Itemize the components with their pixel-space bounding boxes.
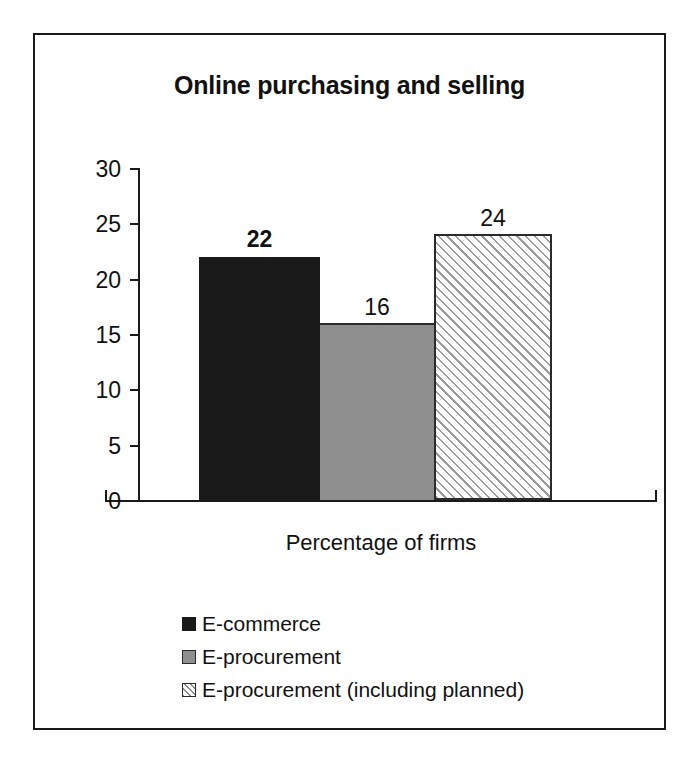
- bar-e-procurement-including-planned[interactable]: 24: [434, 234, 552, 500]
- y-tick-label-15: 15: [95, 324, 121, 347]
- bar-group: 22 16 24: [199, 168, 559, 500]
- y-tick-25: 25: [130, 223, 139, 225]
- legend-item-e-commerce[interactable]: E-commerce: [182, 607, 524, 640]
- y-tick-label-30: 30: [95, 158, 121, 181]
- legend-item-e-procurement-including-planned[interactable]: E-procurement (including planned): [182, 673, 524, 706]
- bar-value-label-e-procurement-including-planned: 24: [436, 207, 550, 230]
- bar-value-label-e-procurement: 16: [320, 296, 434, 319]
- y-tick-label-0: 0: [108, 490, 121, 513]
- chart-legend: E-commerce E-procurement E-procurement (…: [182, 607, 524, 706]
- legend-label-e-procurement: E-procurement: [202, 646, 341, 667]
- y-tick-0: 0: [130, 500, 139, 502]
- black-square-icon: [182, 617, 196, 631]
- bar-e-commerce[interactable]: 22: [199, 257, 320, 500]
- x-axis-right-cap: [655, 490, 657, 502]
- y-tick-30: 30: [130, 168, 139, 170]
- chart-figure-frame: Online purchasing and selling 30 25 20 1…: [33, 33, 666, 730]
- legend-label-e-commerce: E-commerce: [202, 613, 321, 634]
- bar-e-procurement[interactable]: 16: [320, 323, 434, 500]
- x-axis-left-cap: [105, 490, 107, 502]
- y-tick-label-20: 20: [95, 269, 121, 292]
- hatched-square-icon: [182, 683, 196, 697]
- legend-item-e-procurement[interactable]: E-procurement: [182, 640, 524, 673]
- y-tick-10: 10: [130, 389, 139, 391]
- y-tick-label-5: 5: [108, 435, 121, 458]
- y-tick-20: 20: [130, 279, 139, 281]
- gray-square-icon: [182, 650, 196, 664]
- x-axis-line: [105, 500, 657, 502]
- y-tick-5: 5: [130, 445, 139, 447]
- y-tick-label-25: 25: [95, 213, 121, 236]
- y-tick-label-10: 10: [95, 379, 121, 402]
- legend-label-e-procurement-including-planned: E-procurement (including planned): [202, 679, 524, 700]
- bar-value-label-e-commerce: 22: [199, 228, 320, 251]
- x-axis-label: Percentage of firms: [105, 530, 657, 556]
- y-tick-15: 15: [130, 334, 139, 336]
